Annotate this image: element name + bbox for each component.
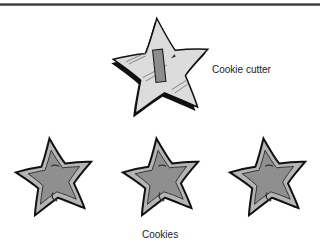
cookies-label: Cookies bbox=[142, 229, 178, 240]
cookie-1 bbox=[12, 133, 98, 217]
cookie-cutter-label: Cookie cutter bbox=[212, 64, 271, 75]
cookie-figure bbox=[0, 0, 320, 249]
cookie-3 bbox=[226, 133, 312, 217]
cookie-cutter-illustration bbox=[107, 13, 214, 119]
cookie-2 bbox=[119, 133, 205, 217]
